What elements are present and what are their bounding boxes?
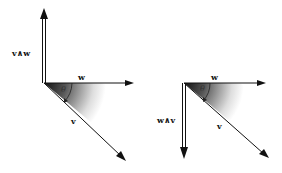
angle-wedge-shading — [44, 83, 112, 124]
wedge-label-w-wedge-v: w∧v — [156, 115, 175, 125]
vector-v-label: v — [216, 121, 222, 131]
angle-theta-label: θ — [200, 84, 205, 93]
angle-theta-label: θ — [61, 85, 66, 94]
right-diagram: θ w∧v w v — [156, 72, 269, 159]
vector-v-label: v — [70, 116, 76, 126]
vector-w-label: w — [210, 72, 219, 82]
cross-product-diagram: θ v∧w w v θ w∧v w v — [0, 0, 282, 173]
left-diagram: θ v∧w w v — [11, 8, 134, 161]
wedge-label-v-wedge-w: v∧w — [11, 48, 31, 58]
wedge-vector-arrow-up — [40, 8, 48, 83]
wedge-vector-arrow-down — [180, 83, 188, 159]
angle-wedge-shading — [184, 83, 248, 123]
vector-w-label: w — [77, 72, 86, 82]
